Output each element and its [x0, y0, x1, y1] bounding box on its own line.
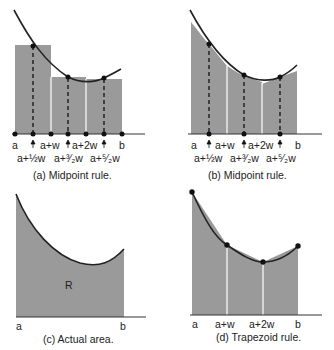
label-half-w: a+½w — [17, 152, 46, 164]
label-five-halves-w: a+⁵⁄₂w — [266, 152, 296, 164]
caption-c: (c) Actual area. — [43, 333, 114, 345]
label-b: b — [120, 320, 126, 332]
label-five-halves-w: a+⁵⁄₂w — [90, 152, 120, 164]
label-a-plus-w: a+w — [40, 139, 60, 151]
label-half-w: a+½w — [194, 152, 223, 164]
label-a-plus-2w: a+2w — [72, 139, 98, 151]
caption-b: (b) Midpoint rule. — [208, 169, 287, 181]
panel-d-trapezoid-rule: a a+w a+2w b (d) Trapezoid rule. — [189, 189, 322, 343]
label-a: a — [191, 139, 197, 151]
label-a: a — [192, 318, 198, 330]
panel-b-midpoint-rule: a a+w a+2w b a+½w a+³⁄₂w a+⁵⁄₂w (b) Midp… — [188, 10, 322, 181]
label-a: a — [12, 139, 18, 151]
area-region-r — [16, 194, 124, 317]
caption-a: (a) Midpoint rule. — [33, 169, 112, 181]
label-three-halves-w: a+³⁄₂w — [54, 152, 83, 164]
label-three-halves-w: a+³⁄₂w — [230, 152, 259, 164]
region-label: R — [65, 279, 73, 291]
label-a-plus-2w: a+2w — [248, 139, 274, 151]
label-a-plus-w: a+w — [215, 139, 235, 151]
panel-c-actual-area: R a b (c) Actual area. — [16, 194, 146, 345]
trapezoid-region — [192, 192, 298, 315]
label-b: b — [119, 139, 125, 151]
caption-d: (d) Trapezoid rule. — [216, 331, 301, 343]
label-a-plus-2w: a+2w — [249, 318, 275, 330]
panel-a-midpoint-rule: a a+w a+2w b a+½w a+³⁄₂w a+⁵⁄₂w (a) Midp… — [12, 10, 145, 181]
label-b: b — [295, 318, 301, 330]
label-b: b — [295, 139, 301, 151]
label-a-plus-w: a+w — [215, 318, 235, 330]
label-a: a — [16, 320, 22, 332]
figure: a a+w a+2w b a+½w a+³⁄₂w a+⁵⁄₂w (a) Midp… — [0, 0, 334, 350]
